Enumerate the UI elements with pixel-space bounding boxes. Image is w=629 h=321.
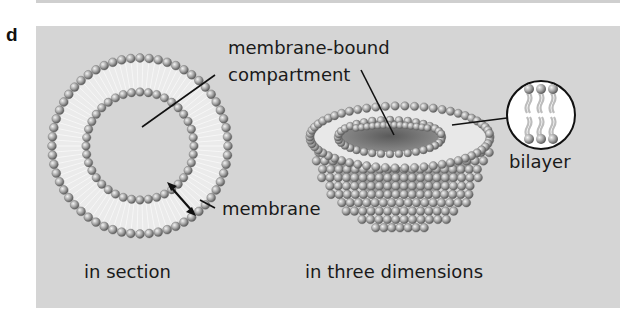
caption-in-three-dimensions: in three dimensions (305, 262, 483, 282)
label-membrane: membrane (222, 199, 320, 219)
hemisphere-vesicle (306, 102, 494, 232)
label-bilayer: bilayer (509, 152, 571, 172)
caption-in-section: in section (84, 262, 171, 282)
label-compartment-line1: membrane-bound (228, 38, 390, 58)
bilayer-inset (507, 81, 575, 149)
cross-section-vesicle (48, 54, 233, 239)
label-compartment-line2: compartment (228, 65, 350, 85)
